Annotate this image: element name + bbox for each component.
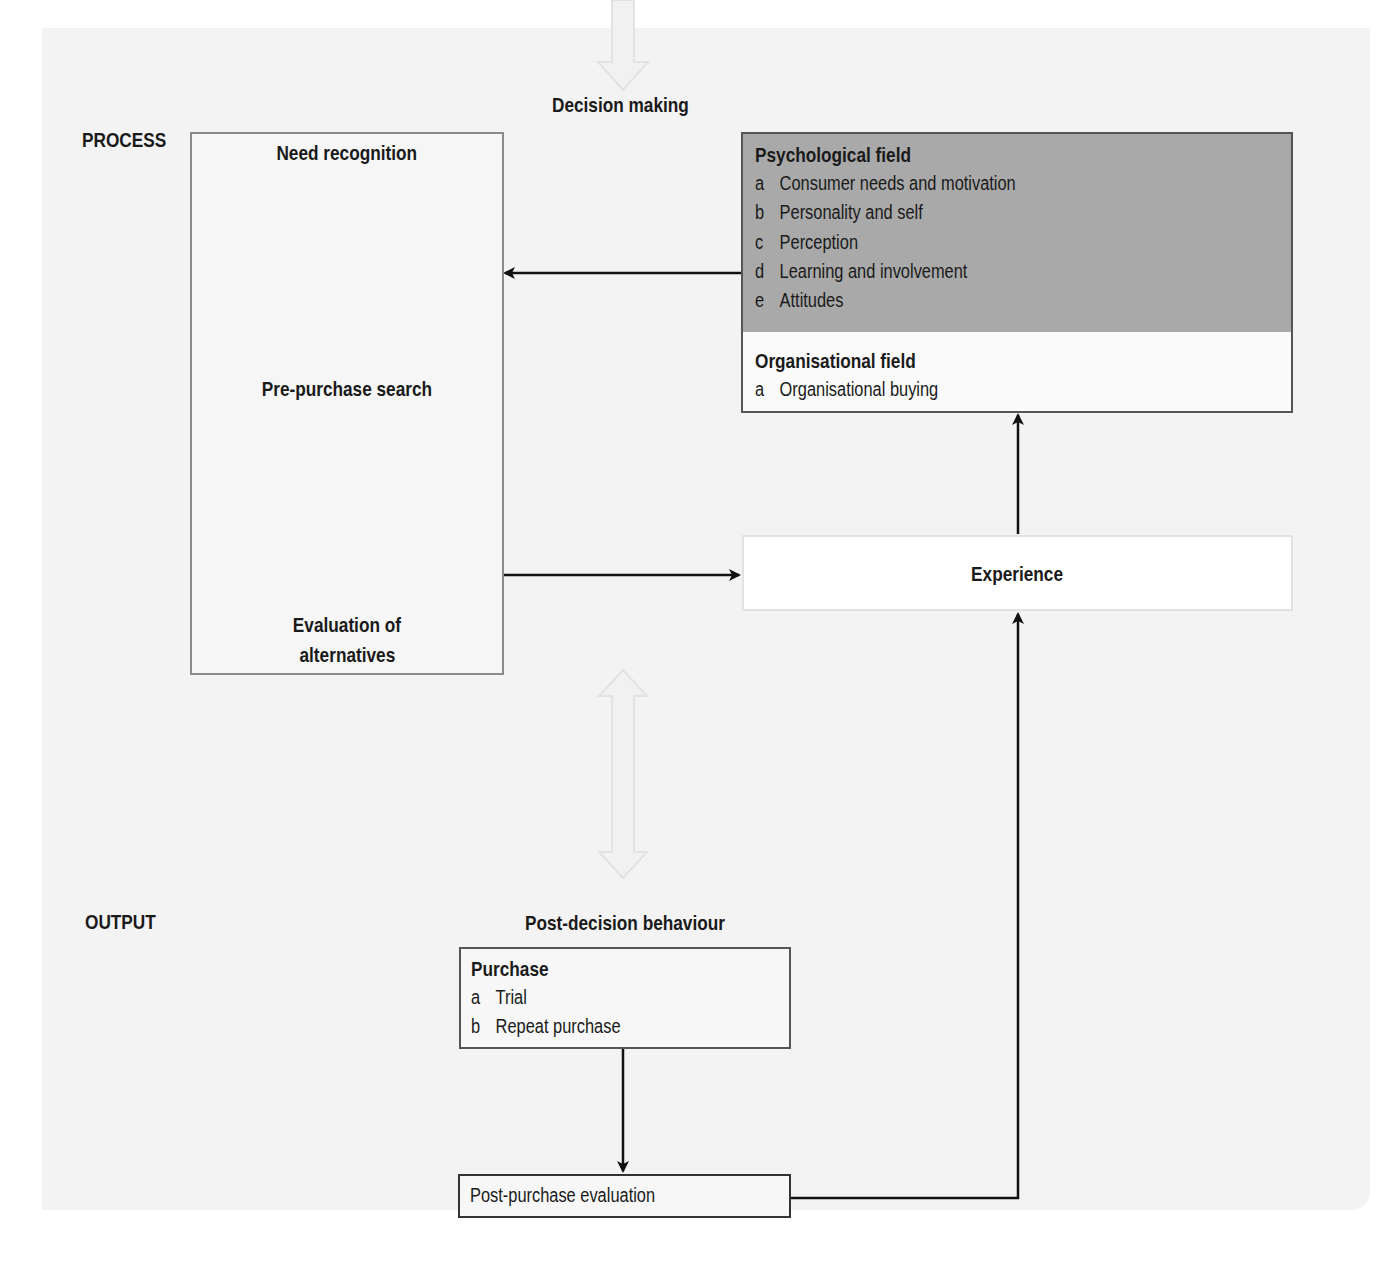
stage-evaluation-line2: alternatives [192, 640, 502, 670]
process-output-double-arrow-icon [599, 670, 647, 878]
psych-item-e: eAttitudes [755, 286, 863, 315]
output-section-label: OUTPUT [85, 909, 171, 935]
organisational-field-title: Organisational field [755, 346, 951, 375]
psych-item-b: bPersonality and self [755, 198, 960, 227]
decision-making-label: Decision making [552, 92, 719, 118]
stage-evaluation-line1: Evaluation of [192, 610, 502, 640]
arrow-evaluation-to-experience [791, 614, 1018, 1198]
fields-box: Psychological field aConsumer needs and … [741, 132, 1293, 413]
purchase-title: Purchase [471, 954, 566, 983]
experience-box: Experience [742, 535, 1293, 611]
post-purchase-evaluation-label: Post-purchase evaluation [470, 1181, 696, 1210]
psychological-field-title: Psychological field [755, 140, 945, 169]
post-purchase-evaluation-box: Post-purchase evaluation [458, 1174, 791, 1218]
input-hollow-arrow-icon [598, 0, 648, 90]
purchase-item-b: bRepeat purchase [471, 1012, 653, 1041]
psych-item-d: dLearning and involvement [755, 257, 1014, 286]
psych-item-c: cPerception [755, 228, 881, 257]
org-item-a: aOrganisational buying [755, 375, 978, 404]
post-decision-heading: Post-decision behaviour [459, 910, 791, 936]
purchase-box: Purchase aTrial bRepeat purchase [459, 947, 791, 1049]
process-box: Need recognition Pre-purchase search Eva… [190, 132, 504, 675]
experience-label: Experience [744, 559, 1291, 589]
process-section-label: PROCESS [82, 127, 185, 153]
stage-pre-purchase-search: Pre-purchase search [192, 374, 502, 404]
psych-item-a: aConsumer needs and motivation [755, 169, 1073, 198]
purchase-item-a: aTrial [471, 983, 539, 1012]
stage-need-recognition: Need recognition [192, 138, 502, 168]
